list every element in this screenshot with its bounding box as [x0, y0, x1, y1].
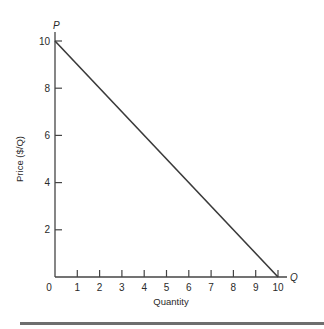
y-axis-title: Price ($/Q)	[14, 136, 25, 182]
x-tick-label: 4	[141, 282, 147, 293]
y-tick-label: 10	[39, 36, 51, 47]
x-tick-label: 3	[119, 282, 125, 293]
x-tick-label: 7	[208, 282, 214, 293]
x-axis: 012345678910	[46, 270, 287, 293]
demand-chart: 246810 012345678910 P Q Quantity Price (…	[0, 0, 324, 329]
x-tick-label: 8	[231, 282, 237, 293]
y-tick-label: 8	[44, 83, 50, 94]
x-axis-letter: Q	[290, 272, 298, 283]
x-tick-label: 1	[75, 282, 81, 293]
x-axis-title: Quantity	[153, 296, 189, 307]
x-tick-label: 5	[164, 282, 170, 293]
series-line	[55, 41, 278, 277]
x-tick-label: 9	[253, 282, 259, 293]
y-tick-label: 6	[44, 130, 50, 141]
y-axis: 246810	[39, 32, 62, 277]
x-tick-label: 0	[46, 282, 52, 293]
bottom-rule	[20, 322, 324, 325]
x-tick-label: 10	[272, 282, 284, 293]
y-tick-label: 2	[44, 224, 50, 235]
x-tick-label: 2	[97, 282, 103, 293]
y-tick-label: 4	[44, 177, 50, 188]
demand-line	[55, 41, 278, 277]
y-axis-letter: P	[53, 20, 60, 31]
x-tick-label: 6	[186, 282, 192, 293]
